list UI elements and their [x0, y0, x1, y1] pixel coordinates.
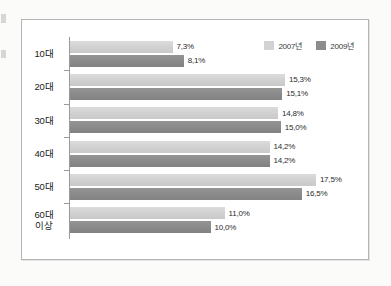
bar-2009년[interactable]	[70, 188, 302, 200]
bar-value-label: 7,3%	[177, 42, 194, 51]
category-label: 50대	[22, 170, 66, 203]
bar-group: 20대15,3%15,1%	[22, 70, 368, 103]
edge-fragment-glyph	[1, 50, 6, 58]
bar-pair: 17,5%16,5%	[70, 170, 368, 203]
bar-2009년[interactable]	[70, 221, 211, 233]
bar-2009년[interactable]	[70, 55, 184, 67]
bar-row: 14,2%	[70, 155, 368, 167]
bar-value-label: 14,8%	[282, 109, 304, 118]
chart-plot-area: 2007년 2009년 10대7,3%8,1%20대15,3%15,1%30대1…	[22, 20, 368, 259]
bar-pair: 11,0%10,0%	[70, 203, 368, 236]
bar-row: 15,3%	[70, 74, 368, 86]
bar-pair: 15,3%15,1%	[70, 70, 368, 103]
bar-row: 15,0%	[70, 121, 368, 133]
category-label-line: 40대	[35, 148, 54, 159]
bar-value-label: 16,5%	[306, 189, 328, 198]
bar-2007년[interactable]	[70, 41, 173, 53]
category-label-line: 60대	[35, 209, 54, 220]
bar-2007년[interactable]	[70, 74, 285, 86]
bar-value-label: 14,2%	[274, 142, 296, 151]
bar-row: 7,3%	[70, 41, 368, 53]
bar-value-label: 15,0%	[285, 123, 307, 132]
category-label: 40대	[22, 137, 66, 170]
category-label-line: 30대	[35, 115, 54, 126]
bar-group: 60대이상11,0%10,0%	[22, 203, 368, 236]
page-edge-fragments	[0, 0, 14, 286]
bar-group: 50대17,5%16,5%	[22, 170, 368, 203]
bar-value-label: 14,2%	[274, 156, 296, 165]
bar-value-label: 15,3%	[289, 75, 311, 84]
bar-value-label: 17,5%	[320, 175, 342, 184]
bar-row: 17,5%	[70, 174, 368, 186]
category-label: 30대	[22, 104, 66, 137]
category-label-line: 10대	[35, 48, 54, 59]
bar-group: 30대14,8%15,0%	[22, 104, 368, 137]
bar-row: 11,0%	[70, 207, 368, 219]
category-label-line: 20대	[35, 81, 54, 92]
bar-group: 10대7,3%8,1%	[22, 37, 368, 70]
bar-row: 14,8%	[70, 107, 368, 119]
bar-2007년[interactable]	[70, 107, 278, 119]
bar-2007년[interactable]	[70, 174, 316, 186]
bar-2009년[interactable]	[70, 88, 282, 100]
bar-value-label: 11,0%	[229, 209, 250, 218]
bar-value-label: 15,1%	[286, 89, 308, 98]
bar-value-label: 8,1%	[188, 56, 205, 65]
bar-row: 8,1%	[70, 55, 368, 67]
category-label-line: 이상	[35, 220, 53, 231]
bar-group: 40대14,2%14,2%	[22, 137, 368, 170]
bar-pair: 7,3%8,1%	[70, 37, 368, 70]
bar-2009년[interactable]	[70, 121, 281, 133]
bar-row: 14,2%	[70, 141, 368, 153]
bar-2009년[interactable]	[70, 155, 270, 167]
category-label: 60대이상	[22, 203, 66, 236]
chart-figure-frame: 2007년 2009년 10대7,3%8,1%20대15,3%15,1%30대1…	[21, 19, 369, 260]
bar-value-label: 10,0%	[215, 223, 237, 232]
bar-2007년[interactable]	[70, 141, 270, 153]
bar-pair: 14,8%15,0%	[70, 104, 368, 137]
bar-groups: 10대7,3%8,1%20대15,3%15,1%30대14,8%15,0%40대…	[22, 37, 368, 237]
bar-pair: 14,2%14,2%	[70, 137, 368, 170]
bar-row: 16,5%	[70, 188, 368, 200]
edge-fragment-glyph	[1, 14, 6, 23]
category-label: 10대	[22, 37, 66, 70]
bar-2007년[interactable]	[70, 207, 225, 219]
bar-row: 15,1%	[70, 88, 368, 100]
bar-row: 10,0%	[70, 221, 368, 233]
category-label: 20대	[22, 70, 66, 103]
category-label-line: 50대	[35, 181, 54, 192]
